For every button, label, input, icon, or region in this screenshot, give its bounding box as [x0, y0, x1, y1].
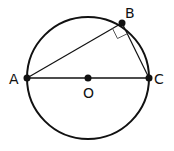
segment-bc: [122, 23, 149, 78]
label-a: A: [9, 71, 19, 87]
point-o: [85, 75, 92, 82]
label-b: B: [125, 5, 135, 21]
point-a: [24, 75, 31, 82]
label-c: C: [154, 71, 164, 87]
label-o: O: [83, 85, 94, 101]
point-c: [146, 75, 153, 82]
circle-diagram: A O C B: [0, 0, 174, 151]
segment-ab: [27, 23, 122, 78]
